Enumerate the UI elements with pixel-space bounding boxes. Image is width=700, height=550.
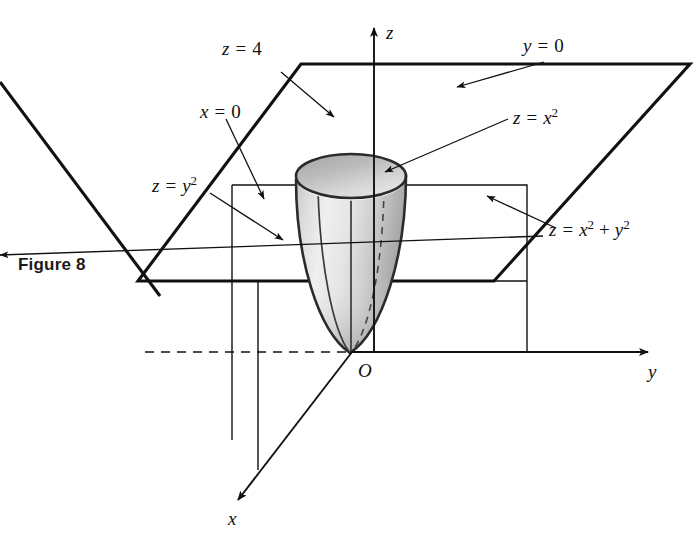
z-axis-label: z bbox=[385, 22, 394, 43]
leader-trace-zy2 bbox=[210, 193, 283, 240]
label-plane-y0-lhs: y bbox=[521, 35, 532, 56]
label-surface-plus: + bbox=[599, 219, 610, 240]
label-plane-z4-lhs: z bbox=[221, 38, 230, 59]
label-surface-exp2: 2 bbox=[623, 217, 630, 232]
origin-label: O bbox=[358, 360, 372, 381]
figure-diagram: z=4 y=0 x=0 z=y2 z=x2 z=x2+y2 bbox=[0, 0, 700, 550]
paraboloid-solid bbox=[296, 154, 406, 353]
label-plane-z4-rhs: 4 bbox=[252, 38, 262, 59]
leader-surface-lower bbox=[0, 236, 543, 255]
label-trace-zx2-lhs: z bbox=[512, 107, 521, 128]
label-plane-x0-rhs: 0 bbox=[231, 101, 241, 122]
leader-plane-y0 bbox=[457, 62, 544, 87]
leader-surface-upper bbox=[487, 196, 556, 228]
label-plane-y0-rhs: 0 bbox=[554, 35, 564, 56]
y-axis-label: y bbox=[646, 361, 657, 382]
label-surface-op: = bbox=[562, 219, 573, 240]
label-trace-zy2-lhs: z bbox=[151, 175, 160, 196]
label-plane-y0: y=0 bbox=[521, 35, 564, 56]
x-axis-label: x bbox=[227, 508, 237, 529]
label-trace-zy2-op: = bbox=[165, 175, 176, 196]
label-surface-exp1: 2 bbox=[588, 217, 595, 232]
label-trace-zy2-exp: 2 bbox=[191, 173, 198, 188]
label-surface-var2: y bbox=[613, 219, 624, 240]
coordinate-axes bbox=[238, 28, 648, 500]
label-trace-zy2: z=y2 bbox=[151, 173, 197, 196]
plane-z-equals-4 bbox=[138, 64, 690, 281]
label-trace-zx2-op: = bbox=[526, 107, 537, 128]
diagram-labels: z=4 y=0 x=0 z=y2 z=x2 z=x2+y2 bbox=[151, 22, 657, 529]
leader-plane-z4 bbox=[281, 72, 334, 117]
plane-z4-outline bbox=[138, 64, 690, 281]
label-trace-zx2-exp: 2 bbox=[552, 105, 559, 120]
label-trace-zy2-var: y bbox=[180, 175, 191, 196]
label-plane-x0-lhs: x bbox=[199, 101, 209, 122]
leader-lines bbox=[0, 62, 556, 255]
label-surface-lhs: z bbox=[548, 219, 557, 240]
leader-trace-zx2 bbox=[385, 119, 508, 172]
label-plane-y0-op: = bbox=[537, 35, 548, 56]
label-plane-z4: z=4 bbox=[221, 38, 262, 59]
label-trace-zx2: z=x2 bbox=[512, 105, 558, 128]
label-plane-z4-op: = bbox=[235, 38, 246, 59]
figure-caption: Figure 8 bbox=[18, 255, 86, 275]
label-plane-x0: x=0 bbox=[199, 101, 241, 122]
label-plane-x0-op: = bbox=[214, 101, 225, 122]
x-axis bbox=[238, 352, 352, 500]
figure-container: Figure 8 bbox=[0, 0, 700, 550]
label-surface-paraboloid: z=x2+y2 bbox=[548, 217, 630, 240]
